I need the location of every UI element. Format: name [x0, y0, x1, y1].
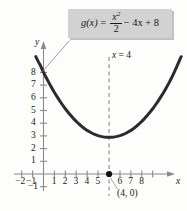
function-name: g(x) — [81, 18, 98, 29]
function-callout-box: g(x) = x2 2 − 4x + 8 — [68, 9, 172, 38]
y-tick-label-1: 1 — [31, 155, 36, 165]
x-tick-label-2: 2 — [63, 176, 68, 186]
fraction-x-squared-over-two: x2 2 — [110, 11, 122, 34]
y-axis — [41, 41, 47, 191]
y-tick-label-2: 2 — [31, 143, 36, 153]
x-tick-label-3: 3 — [74, 176, 79, 186]
x-tick-label-neg2: −2 — [15, 176, 25, 186]
y-tick-label-7: 7 — [31, 79, 36, 89]
vertex-point-label: (4, 0) — [117, 188, 138, 198]
y-tick-label-3: 3 — [31, 130, 36, 140]
x-tick-label-7: 7 — [128, 176, 133, 186]
y-axis-label: y — [35, 37, 39, 47]
axis-of-symmetry-label: x = 4 — [112, 50, 131, 60]
x-tick-label-1: 1 — [52, 176, 57, 186]
function-formula: g(x) = x2 2 − 4x + 8 — [81, 12, 159, 35]
fraction-denominator: 2 — [112, 24, 121, 35]
y-tick-label-5: 5 — [31, 105, 36, 115]
y-tick-label-8: 8 — [31, 67, 36, 77]
y-tick-label-4: 4 — [31, 117, 36, 127]
formula-remainder: − 4x + 8 — [124, 18, 159, 29]
parabola-figure: g(x) = x2 2 − 4x + 8 y x 8 7 6 5 4 3 2 1… — [0, 0, 187, 211]
callout-leader-line — [43, 41, 70, 72]
x-tick-label-4: 4 — [85, 176, 90, 186]
x-tick-label-neg1: −1 — [26, 176, 36, 186]
x-tick-label-5: 5 — [95, 176, 100, 186]
fraction-numerator: x2 — [110, 11, 122, 23]
equals-sign: = — [100, 18, 106, 29]
x-tick-label-8: 8 — [139, 176, 144, 186]
y-tick-label-6: 6 — [31, 92, 36, 102]
x-tick-label-6: 6 — [117, 176, 122, 186]
x-axis-label: x — [176, 176, 180, 186]
vertex-point-dot — [106, 171, 112, 177]
